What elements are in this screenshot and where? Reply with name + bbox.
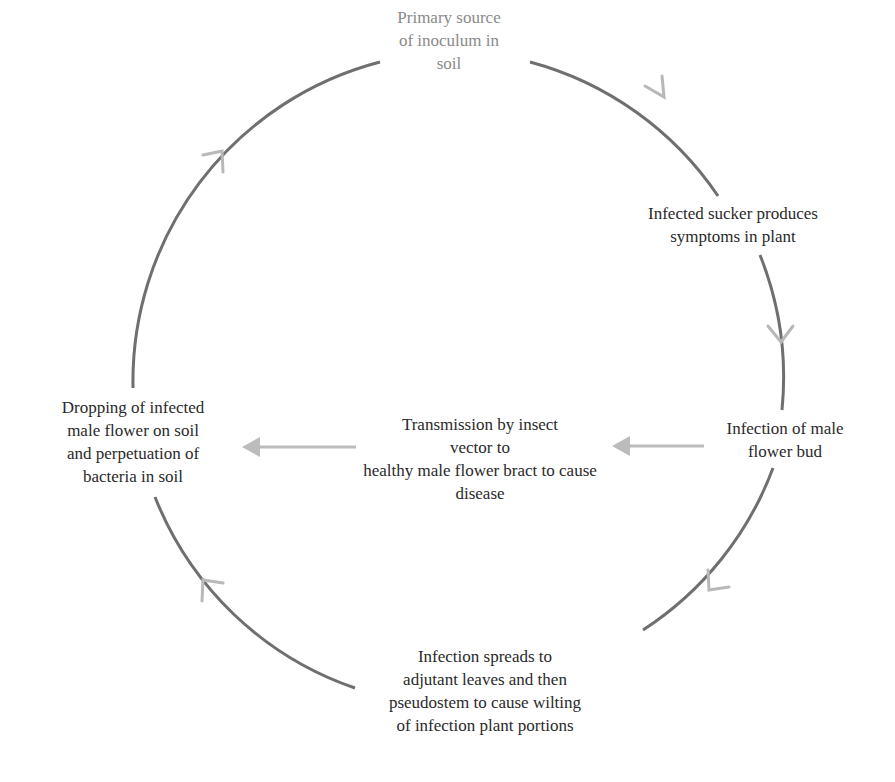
node-line: adjutant leaves and then — [355, 668, 615, 691]
node-line: Dropping of infected — [33, 396, 233, 419]
node-line: symptoms in plant — [618, 225, 848, 248]
node-infected-sucker: Infected sucker produces symptoms in pla… — [618, 202, 848, 248]
node-line: male flower on soil — [33, 419, 233, 442]
node-line: soil — [377, 52, 521, 75]
node-line: pseudostem to cause wilting — [355, 691, 615, 714]
node-line: of inoculum in — [377, 29, 521, 52]
node-line: flower bud — [700, 440, 870, 463]
arc-flower-bud-to-spread — [643, 468, 773, 630]
node-infection-male-flower-bud: Infection of male flower bud — [700, 417, 870, 463]
node-line: of infection plant portions — [355, 714, 615, 737]
arrow-flower-bud-to-transmission — [612, 436, 704, 456]
node-line: vector to — [335, 436, 625, 459]
node-dropping-infected-flower: Dropping of infected male flower on soil… — [33, 396, 233, 488]
arrowhead-icon — [645, 76, 664, 97]
node-line: Infected sucker produces — [618, 202, 848, 225]
node-line: Infection spreads to — [355, 645, 615, 668]
node-line: healthy male flower bract to cause — [335, 459, 625, 482]
node-line: disease — [335, 482, 625, 505]
node-line: Transmission by insect — [335, 413, 625, 436]
node-line: Primary source — [377, 6, 521, 29]
node-infection-spreads: Infection spreads to adjutant leaves and… — [355, 645, 615, 737]
arrowhead-icon — [242, 437, 260, 457]
arrowhead-icon — [203, 151, 223, 172]
node-line: Infection of male — [700, 417, 870, 440]
node-primary-source: Primary source of inoculum in soil — [377, 6, 521, 75]
node-line: and perpetuation of — [33, 442, 233, 465]
node-transmission-insect-vector: Transmission by insect vector to healthy… — [335, 413, 625, 505]
arc-spread-to-dropping — [155, 497, 355, 688]
node-line: bacteria in soil — [33, 465, 233, 488]
arc-top-to-sucker — [530, 62, 718, 196]
arc-dropping-to-source — [133, 62, 380, 388]
